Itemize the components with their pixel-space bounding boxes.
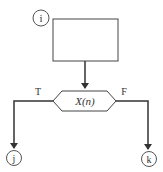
true-connector: j	[7, 151, 22, 166]
true-connector-label: j	[12, 153, 16, 164]
decision-hexagon: X(n)	[53, 91, 116, 111]
true-branch-line	[14, 101, 53, 148]
true-branch-label: T	[35, 86, 41, 97]
entry-connector: i	[33, 10, 49, 26]
process-box	[53, 19, 118, 61]
false-connector-label: k	[147, 154, 152, 165]
false-connector: k	[142, 152, 157, 167]
false-branch-label: F	[121, 86, 127, 97]
false-branch-line	[116, 101, 148, 149]
flowchart: i X(n) T F j k	[0, 0, 163, 172]
entry-connector-label: i	[39, 12, 42, 24]
decision-label: X(n)	[74, 95, 95, 108]
